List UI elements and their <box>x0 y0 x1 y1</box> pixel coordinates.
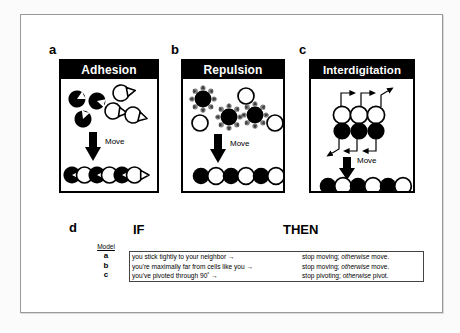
panel-b-body: Move <box>183 79 283 191</box>
panel-c-move-label: Move <box>357 156 377 165</box>
adhesion-move-arrow <box>85 132 101 161</box>
rule-then-a-italic: otherwise <box>341 253 369 260</box>
rule-then-c-italic: otherwise <box>343 272 371 279</box>
interdigitation-row <box>320 178 412 191</box>
model-column-label: Model <box>85 242 127 251</box>
rule-then-a: stop moving; otherwise move. <box>302 253 423 260</box>
panel-c-body: Move <box>311 79 413 191</box>
rule-then-c: stop pivoting; otherwise pivot. <box>302 272 423 279</box>
pivot-arrows-bottom <box>329 139 376 155</box>
model-column: Model a b c <box>85 242 127 280</box>
panel-c-letter: c <box>299 43 306 56</box>
panel-c: c Interdigitation <box>299 43 419 193</box>
model-row-letter-b: b <box>85 261 127 271</box>
rule-if-b: you're maximally far from cells like you… <box>130 263 302 270</box>
panel-d-letter: d <box>69 220 77 235</box>
adhesion-scene <box>61 79 157 191</box>
rules-table: you stick tightly to your neighbor → sto… <box>129 251 424 282</box>
rule-then-b-prefix: stop moving; <box>302 263 341 270</box>
panel-c-box: Interdigitation <box>309 59 415 193</box>
panel-b-box: Repulsion <box>181 59 285 193</box>
panel-c-title: Interdigitation <box>311 61 413 79</box>
panel-b: b Repulsion <box>171 43 289 193</box>
then-column-header: THEN <box>283 222 318 237</box>
panel-a: a Adhesion <box>49 43 159 193</box>
rule-then-a-prefix: stop moving; <box>302 253 341 260</box>
panel-b-move-label: Move <box>230 139 250 148</box>
interdigitation-scene <box>311 79 413 191</box>
repulsion-free-cells <box>189 85 283 131</box>
panel-b-title: Repulsion <box>183 61 283 79</box>
rule-then-a-suffix: move. <box>369 253 389 260</box>
interdigitation-grid <box>333 106 384 139</box>
panel-a-body: Move <box>61 79 157 191</box>
rule-then-b-italic: otherwise <box>341 263 369 270</box>
panel-a-move-label: Move <box>105 137 125 146</box>
model-row-letter-c: c <box>85 270 127 280</box>
table-row: you stick tightly to your neighbor → sto… <box>130 252 423 262</box>
rule-then-b: stop moving; otherwise move. <box>302 263 423 270</box>
rule-then-c-prefix: stop pivoting; <box>302 272 343 279</box>
panel-b-letter: b <box>171 43 179 56</box>
adhesion-bound-chain <box>63 167 149 184</box>
rules-header-row: IF THEN <box>87 222 429 240</box>
panel-d: d IF THEN Model a b c you stick tightly … <box>69 220 429 292</box>
table-row: you've pivoted through 90˚ → stop pivoti… <box>130 271 423 281</box>
repulsion-scene <box>183 79 283 191</box>
if-column-header: IF <box>133 222 145 237</box>
repulsion-sorted-row <box>193 168 283 185</box>
interdigitation-move-arrow <box>339 157 355 180</box>
figure-frame: a Adhesion <box>20 14 443 313</box>
pivot-arrows-top <box>341 89 391 107</box>
panel-a-box: Adhesion <box>59 59 159 193</box>
panel-a-title: Adhesion <box>61 61 157 79</box>
rule-then-b-suffix: move. <box>369 263 389 270</box>
adhesion-free-cells <box>65 83 149 130</box>
panel-a-letter: a <box>49 43 56 56</box>
rule-if-a: you stick tightly to your neighbor → <box>130 253 302 260</box>
rule-then-c-suffix: pivot. <box>371 272 389 279</box>
rule-if-c: you've pivoted through 90˚ → <box>130 272 302 279</box>
model-row-letter-a: a <box>85 251 127 261</box>
repulsion-move-arrow <box>210 134 226 163</box>
table-row: you're maximally far from cells like you… <box>130 262 423 272</box>
